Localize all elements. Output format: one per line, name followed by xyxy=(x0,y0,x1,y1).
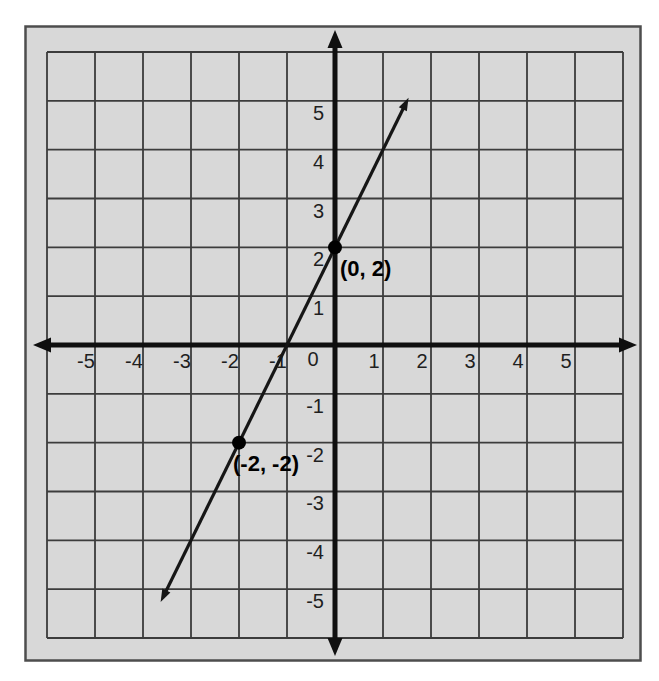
origin-tick-label: 0 xyxy=(307,348,318,370)
y-tick-label: 4 xyxy=(313,151,324,173)
y-tick-label: -1 xyxy=(306,395,324,417)
x-tick-label: -3 xyxy=(173,350,191,372)
y-tick-label: -3 xyxy=(306,492,324,514)
x-tick-label: 1 xyxy=(368,350,379,372)
x-tick-label: -4 xyxy=(125,350,143,372)
x-tick-label: -2 xyxy=(221,350,239,372)
x-tick-label: 4 xyxy=(512,350,523,372)
y-tick-label: 3 xyxy=(313,200,324,222)
x-tick-label: 2 xyxy=(416,350,427,372)
x-tick-label: -5 xyxy=(77,350,95,372)
y-tick-label: -4 xyxy=(306,541,324,563)
y-tick-label: -2 xyxy=(306,444,324,466)
x-tick-label: 5 xyxy=(560,350,571,372)
data-point xyxy=(232,436,246,450)
y-tick-label: 2 xyxy=(313,248,324,270)
worksheet-page: -5-4-3-2-112345054321-1-2-3-4-5(0, 2)(-2… xyxy=(0,0,659,681)
coordinate-plane-figure: -5-4-3-2-112345054321-1-2-3-4-5(0, 2)(-2… xyxy=(0,0,659,681)
x-tick-label: 3 xyxy=(464,350,475,372)
y-tick-label: 1 xyxy=(313,297,324,319)
y-tick-label: 5 xyxy=(313,102,324,124)
point-label: (0, 2) xyxy=(340,256,391,281)
data-point xyxy=(328,240,342,254)
y-tick-label: -5 xyxy=(306,590,324,612)
point-label: (-2, -2) xyxy=(233,451,299,476)
